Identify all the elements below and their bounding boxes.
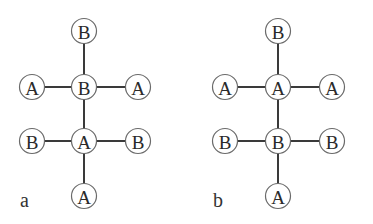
labels-layer: ab <box>20 189 223 211</box>
node-label: B <box>132 132 145 153</box>
node-label: A <box>218 78 232 99</box>
node-label: A <box>325 78 339 99</box>
node-label: B <box>272 22 285 43</box>
node-label: A <box>77 187 91 208</box>
atom-node-b: B <box>72 75 97 100</box>
atom-node-b: B <box>20 129 45 154</box>
atom-node-a: A <box>72 129 97 154</box>
panel-label-b: b <box>213 189 223 211</box>
atom-node-a: A <box>126 75 151 100</box>
node-label: A <box>77 132 91 153</box>
atom-node-a: A <box>20 75 45 100</box>
node-label: B <box>26 132 39 153</box>
atom-node-b: B <box>126 129 151 154</box>
node-label: B <box>78 22 91 43</box>
node-label: A <box>25 78 39 99</box>
atom-node-a: A <box>213 75 238 100</box>
nodes-layer: BABABABABAAABBBA <box>20 19 345 209</box>
node-label: B <box>219 132 232 153</box>
atom-node-b: B <box>266 129 291 154</box>
node-label: B <box>326 132 339 153</box>
atom-node-a: A <box>266 184 291 209</box>
atom-node-a: A <box>266 75 291 100</box>
node-label: A <box>131 78 145 99</box>
node-label: B <box>78 78 91 99</box>
atom-node-b: B <box>320 129 345 154</box>
atom-node-b: B <box>266 19 291 44</box>
node-label: A <box>271 78 285 99</box>
edges-layer <box>32 31 332 196</box>
atom-node-a: A <box>320 75 345 100</box>
atom-node-b: B <box>72 19 97 44</box>
atom-node-b: B <box>213 129 238 154</box>
node-label: B <box>272 132 285 153</box>
node-label: A <box>271 187 285 208</box>
panel-label-a: a <box>20 189 29 211</box>
atom-node-a: A <box>72 184 97 209</box>
diagram-canvas: BABABABABAAABBBA ab <box>0 0 373 224</box>
